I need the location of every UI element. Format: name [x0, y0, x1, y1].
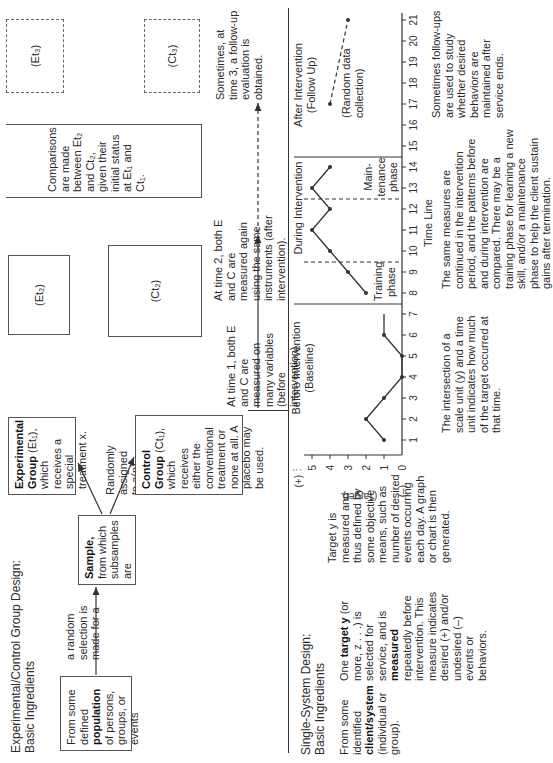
svg-text:19: 19: [408, 56, 419, 68]
svg-text:14: 14: [408, 161, 419, 173]
svg-text:⋮: ⋮: [291, 465, 302, 475]
et2-box: (Et₂): [8, 255, 70, 335]
random-collection-label: (Random data collection): [340, 38, 365, 118]
svg-text:7: 7: [408, 311, 419, 317]
phase-after-label: After Intervention (Follow Up): [292, 25, 317, 145]
svg-text:13: 13: [408, 182, 419, 194]
svg-text:4: 4: [408, 374, 419, 380]
svg-text:2: 2: [408, 416, 419, 422]
intersection-note: The intersection of a scale unit (y) and…: [440, 313, 503, 433]
svg-text:21: 21: [408, 14, 419, 26]
time2-note: At time 2, both E and C are measured aga…: [212, 206, 287, 301]
svg-text:9: 9: [408, 269, 419, 275]
section-divider: [288, 8, 289, 753]
svg-text:3: 3: [343, 465, 354, 471]
svg-text:5: 5: [408, 353, 419, 359]
y-plus-label: (+): [293, 475, 304, 488]
et3-box: (Et₃): [6, 19, 64, 93]
y-minus-label: (–): [397, 485, 408, 497]
svg-text:3: 3: [408, 395, 419, 401]
svg-text:16: 16: [408, 119, 419, 131]
ct3-box: (Ct₃): [144, 19, 200, 93]
svg-text:10: 10: [408, 245, 419, 257]
target-text: One target y (or more, z . . .) is selec…: [338, 591, 488, 681]
svg-text:11: 11: [408, 224, 419, 235]
target-measured-text: Target y is measured and thus defined by…: [326, 471, 451, 563]
phase-during-label: During Intervention: [292, 153, 305, 263]
y-axis-label: (Target): [343, 491, 377, 502]
svg-text:20: 20: [408, 35, 419, 47]
training-phase-label: Training phase: [372, 263, 397, 301]
svg-text:2: 2: [361, 465, 372, 471]
followup-note: Sometimes follow-ups are used to study w…: [430, 8, 505, 118]
svg-text:17: 17: [408, 98, 419, 110]
ss-title: Single-System Design: Basic Ingredients: [300, 634, 327, 755]
svg-text:1: 1: [408, 437, 419, 443]
time1-divider: [248, 410, 288, 411]
svg-text:1: 1: [379, 465, 390, 471]
time3-note: Sometimes, at time 3, a follow-up evalua…: [214, 10, 264, 100]
svg-text:5: 5: [307, 465, 318, 471]
phase-baseline-label: Before Intervention (Baseline): [290, 308, 315, 428]
maintenance-phase-label: Main- tenance phase: [362, 156, 400, 198]
during-note: The same measures are continued in the i…: [440, 129, 553, 289]
ss-title-line2: Basic Ingredients: [314, 634, 328, 755]
svg-text:18: 18: [408, 77, 419, 89]
comparison-box: Comparisons are made between Et₂ and Ct₂…: [6, 124, 202, 198]
svg-text:4: 4: [325, 465, 336, 471]
x-axis-label: Time Line: [422, 199, 434, 247]
svg-text:6: 6: [408, 332, 419, 338]
svg-text:8: 8: [408, 290, 419, 296]
client-text: From some identified client/system (indi…: [338, 685, 401, 755]
svg-text:12: 12: [408, 203, 419, 215]
svg-text:15: 15: [408, 140, 419, 152]
ss-title-line1: Single-System Design:: [300, 634, 314, 755]
ct2-box: (Ct₂): [108, 245, 202, 337]
svg-text:0: 0: [397, 465, 408, 471]
